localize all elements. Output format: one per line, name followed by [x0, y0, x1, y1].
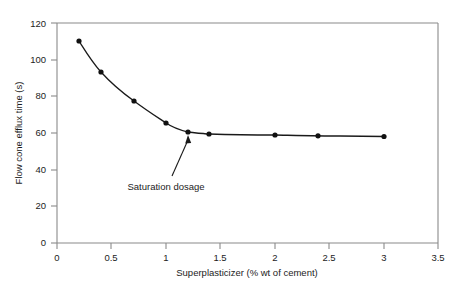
data-point — [272, 132, 277, 137]
chart-figure: 0 20 40 60 80 100 120 0 0.5 1 1.5 2 2.5 — [0, 0, 457, 286]
y-axis-title: Flow cone efflux time (s) — [13, 82, 24, 185]
y-tick-label-60: 60 — [35, 127, 46, 138]
data-point — [98, 69, 103, 74]
data-point — [206, 131, 211, 136]
data-point — [163, 120, 168, 125]
x-tick-label-0: 0 — [54, 252, 59, 263]
y-tick-label-120: 120 — [30, 18, 46, 29]
flow-cone-efflux-line-chart: 0 20 40 60 80 100 120 0 0.5 1 1.5 2 2.5 — [0, 0, 457, 286]
x-tick-label-3: 3 — [381, 252, 386, 263]
x-tick-label-3-5: 3.5 — [431, 252, 444, 263]
y-tick-label-40: 40 — [35, 164, 46, 175]
data-point — [185, 129, 190, 134]
y-tick-label-0: 0 — [41, 237, 46, 248]
x-tick-label-2: 2 — [272, 252, 277, 263]
y-tick-label-80: 80 — [35, 90, 46, 101]
y-tick-label-100: 100 — [30, 54, 46, 65]
x-tick-label-1: 1 — [163, 252, 168, 263]
annotation-label-saturation-dosage: Saturation dosage — [127, 181, 204, 192]
data-point — [315, 133, 320, 138]
x-axis-title: Superplasticizer (% wt of cement) — [176, 267, 318, 278]
data-point — [131, 98, 136, 103]
y-tick-label-20: 20 — [35, 200, 46, 211]
data-point — [76, 38, 81, 43]
data-point — [381, 134, 386, 139]
x-tick-label-1-5: 1.5 — [213, 252, 226, 263]
x-tick-label-0-5: 0.5 — [104, 252, 117, 263]
x-tick-label-2-5: 2.5 — [322, 252, 335, 263]
